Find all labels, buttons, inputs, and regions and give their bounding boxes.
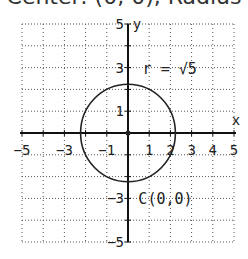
y-axis-label: y [133,16,141,32]
center-annotation: C(0,0) [138,190,192,208]
y-tick-label: 5 [116,16,124,32]
x-tick-label: −5 [14,142,31,158]
center-point [126,131,131,136]
x-tick-label: 2 [166,142,174,158]
radius-annotation: r = √5 [143,60,197,78]
x-tick-label: 3 [187,142,195,158]
y-tick-label: 3 [116,60,124,76]
y-tick-label: 1 [116,103,124,119]
x-tick-label: 1 [145,142,153,158]
x-tick-label: −3 [56,142,73,158]
x-tick-label: 5 [230,142,238,158]
x-tick-label: 4 [209,142,217,158]
y-tick-label: −5 [107,234,124,250]
circle-plot: −5−3−112345531−3−5xyr = √5C(0,0) [0,0,248,259]
y-tick-label: −3 [107,190,124,206]
x-axis-label: x [232,112,240,128]
x-tick-label: −1 [98,142,115,158]
